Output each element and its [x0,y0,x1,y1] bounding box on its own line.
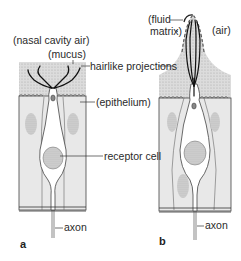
panel-label-b: b [159,235,166,247]
label-hairlike-projections: hairlike projections [90,61,177,72]
label-axon-a: axon [64,222,87,233]
label-nasal-cavity-air: (nasal cavity air) [13,35,89,46]
panel-label-a: a [20,238,26,250]
label-receptor-cell: receptor cell [104,151,161,162]
label-mucus: (mucus) [48,49,86,60]
label-fluid-matrix-line1: (fluid [148,14,171,25]
label-epithelium: (epithelium) [96,97,151,108]
nucleus-a [43,147,63,169]
panel-b-drawing [159,15,231,240]
label-axon-b: axon [205,220,228,231]
label-air: (air) [212,25,231,36]
olfactory-receptor-diagram: (nasal cavity air) (mucus) hairlike proj… [0,0,241,261]
label-fluid-matrix-line2: matrix) [150,26,182,37]
nucleus-b [184,141,206,165]
panel-a-drawing [19,62,86,238]
